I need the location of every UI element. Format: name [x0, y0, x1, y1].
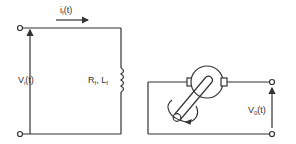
- output-terminal-bottom: [270, 132, 275, 137]
- current-label: if(t): [60, 6, 72, 16]
- field-winding-label: Rf, Lf: [88, 76, 108, 86]
- generator-circuit: [148, 66, 275, 137]
- input-terminal-bottom: [18, 132, 23, 137]
- armature-icon: [191, 66, 223, 98]
- output-terminal-top: [270, 80, 275, 85]
- input-voltage-label: Vi(t): [18, 76, 34, 86]
- input-terminal-top: [18, 26, 23, 31]
- output-voltage-label: V0(t): [248, 106, 266, 116]
- brush-right: [221, 78, 227, 86]
- rotation-arrow-icon: [168, 100, 197, 122]
- field-coil-icon: [121, 68, 124, 92]
- circuit-diagram: [0, 0, 296, 144]
